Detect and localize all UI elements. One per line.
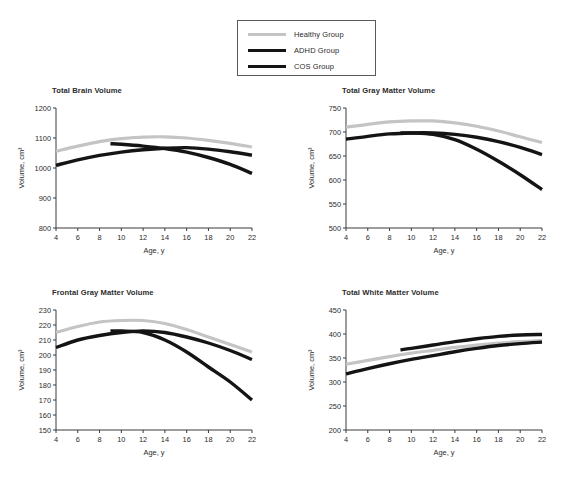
panel-frontal-gray-matter-volume: Frontal Gray Matter Volume 1501601701801…: [10, 288, 260, 468]
svg-text:190: 190: [39, 366, 51, 375]
svg-text:4: 4: [344, 233, 348, 242]
legend-item-adhd: ADHD Group: [248, 42, 375, 58]
svg-text:600: 600: [329, 176, 341, 185]
svg-text:6: 6: [76, 435, 80, 444]
svg-text:1000: 1000: [35, 164, 51, 173]
svg-text:20: 20: [226, 233, 234, 242]
svg-text:Age, y: Age, y: [144, 246, 165, 255]
svg-text:18: 18: [204, 233, 212, 242]
svg-text:4: 4: [344, 435, 348, 444]
svg-text:180: 180: [39, 381, 51, 390]
svg-text:800: 800: [39, 224, 51, 233]
panel-title: Total Brain Volume: [52, 86, 122, 95]
chart-svg: 20025030035040045046810121416182022Age, …: [300, 288, 550, 468]
svg-text:200: 200: [39, 351, 51, 360]
svg-text:230: 230: [39, 306, 51, 315]
svg-text:12: 12: [139, 435, 147, 444]
chart-svg: 80090010001100120046810121416182022Age, …: [10, 86, 260, 266]
svg-text:700: 700: [329, 128, 341, 137]
svg-text:450: 450: [329, 306, 341, 315]
svg-text:Age, y: Age, y: [434, 246, 455, 255]
svg-text:14: 14: [451, 233, 459, 242]
panel-title: Total White Matter Volume: [342, 288, 439, 297]
legend-label-healthy: Healthy Group: [294, 30, 344, 39]
svg-text:8: 8: [387, 435, 391, 444]
svg-text:300: 300: [329, 378, 341, 387]
svg-text:220: 220: [39, 321, 51, 330]
svg-text:1200: 1200: [35, 104, 51, 113]
svg-text:400: 400: [329, 330, 341, 339]
panel-title: Total Gray Matter Volume: [342, 86, 435, 95]
svg-text:12: 12: [429, 233, 437, 242]
svg-text:16: 16: [183, 233, 191, 242]
legend-item-healthy: Healthy Group: [248, 26, 375, 42]
svg-text:900: 900: [39, 194, 51, 203]
chart-svg: 1501601701801902002102202304681012141618…: [10, 288, 260, 468]
svg-text:210: 210: [39, 336, 51, 345]
legend-swatch-adhd: [248, 49, 286, 52]
svg-text:160: 160: [39, 411, 51, 420]
svg-text:20: 20: [516, 233, 524, 242]
svg-text:500: 500: [329, 224, 341, 233]
svg-text:16: 16: [473, 233, 481, 242]
legend-swatch-cos: [248, 65, 286, 68]
svg-text:12: 12: [429, 435, 437, 444]
svg-text:16: 16: [473, 435, 481, 444]
svg-text:Volume, cm³: Volume, cm³: [17, 147, 26, 189]
svg-text:8: 8: [387, 233, 391, 242]
svg-text:250: 250: [329, 402, 341, 411]
svg-text:22: 22: [248, 233, 256, 242]
svg-text:18: 18: [204, 435, 212, 444]
svg-text:20: 20: [226, 435, 234, 444]
svg-text:170: 170: [39, 396, 51, 405]
svg-text:1100: 1100: [35, 134, 51, 143]
panel-total-white-matter-volume: Total White Matter Volume 20025030035040…: [300, 288, 550, 468]
svg-text:14: 14: [161, 435, 169, 444]
panel-total-gray-matter-volume: Total Gray Matter Volume 500550600650700…: [300, 86, 550, 266]
legend-swatch-healthy: [248, 33, 286, 36]
svg-text:10: 10: [407, 233, 415, 242]
legend-label-cos: COS Group: [294, 62, 334, 71]
svg-text:14: 14: [161, 233, 169, 242]
svg-text:Age, y: Age, y: [144, 448, 165, 457]
svg-text:350: 350: [329, 354, 341, 363]
svg-text:6: 6: [366, 233, 370, 242]
svg-text:750: 750: [329, 104, 341, 113]
chart-legend: Healthy Group ADHD Group COS Group: [237, 20, 376, 76]
svg-text:16: 16: [183, 435, 191, 444]
svg-text:Age, y: Age, y: [434, 448, 455, 457]
svg-text:20: 20: [516, 435, 524, 444]
svg-text:10: 10: [117, 233, 125, 242]
svg-text:8: 8: [97, 435, 101, 444]
figure-canvas: Healthy Group ADHD Group COS Group Total…: [0, 0, 564, 487]
svg-text:200: 200: [329, 426, 341, 435]
svg-text:22: 22: [248, 435, 256, 444]
svg-text:150: 150: [39, 426, 51, 435]
svg-text:Volume, cm³: Volume, cm³: [17, 349, 26, 391]
svg-text:22: 22: [538, 233, 546, 242]
panel-total-brain-volume: Total Brain Volume 800900100011001200468…: [10, 86, 260, 266]
svg-text:Volume, cm³: Volume, cm³: [307, 147, 316, 189]
svg-text:6: 6: [76, 233, 80, 242]
panel-title: Frontal Gray Matter Volume: [52, 288, 154, 297]
svg-text:22: 22: [538, 435, 546, 444]
chart-svg: 50055060065070075046810121416182022Age, …: [300, 86, 550, 266]
svg-text:4: 4: [54, 233, 58, 242]
svg-text:8: 8: [97, 233, 101, 242]
legend-item-cos: COS Group: [248, 58, 375, 74]
svg-text:14: 14: [451, 435, 459, 444]
svg-text:6: 6: [366, 435, 370, 444]
svg-text:12: 12: [139, 233, 147, 242]
legend-label-adhd: ADHD Group: [294, 46, 339, 55]
svg-text:Volume, cm³: Volume, cm³: [307, 349, 316, 391]
svg-text:650: 650: [329, 152, 341, 161]
svg-text:18: 18: [494, 435, 502, 444]
svg-text:10: 10: [407, 435, 415, 444]
svg-text:10: 10: [117, 435, 125, 444]
svg-text:18: 18: [494, 233, 502, 242]
svg-text:4: 4: [54, 435, 58, 444]
svg-text:550: 550: [329, 200, 341, 209]
